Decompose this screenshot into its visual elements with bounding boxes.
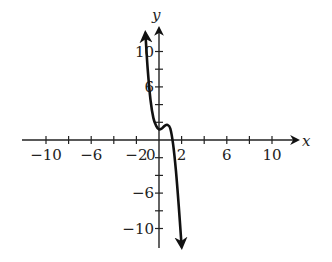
y-axis-label: y [151, 6, 161, 24]
x-tick-label: 10 [262, 146, 281, 164]
axes [22, 28, 298, 248]
x-tick-label: −2 [125, 146, 147, 164]
x-axis-label: x [302, 132, 311, 150]
x-tick-label: −10 [30, 146, 62, 164]
y-tick-label: 10 [135, 43, 154, 61]
x-tick-label: −6 [80, 146, 102, 164]
origin-label: 0 [146, 146, 156, 164]
chart: −10−6−22610106−6−10 x y 0 [0, 0, 332, 262]
x-tick-label: 2 [177, 146, 187, 164]
y-tick-label: −6 [132, 184, 154, 202]
y-tick-label: −10 [122, 220, 154, 238]
x-tick-label: 6 [222, 146, 232, 164]
